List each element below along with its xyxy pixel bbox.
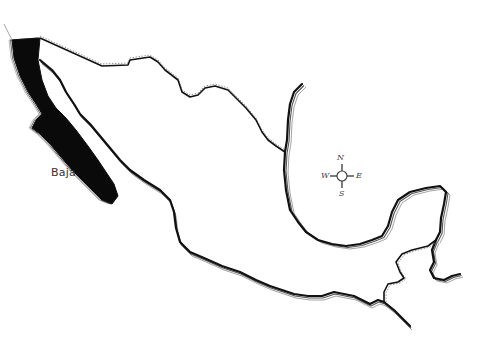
- compass-rose: [330, 164, 354, 188]
- gulf-coast: [284, 84, 450, 249]
- compass-south-label: S: [339, 189, 344, 198]
- map-canvas: Baja N S E W: [0, 0, 489, 356]
- compass-north-label: N: [337, 153, 344, 162]
- compass-east-label: E: [356, 171, 362, 180]
- compass-west-label: W: [321, 171, 329, 180]
- yucatan-east-coast: [430, 240, 463, 283]
- baja-label: Baja: [51, 166, 76, 179]
